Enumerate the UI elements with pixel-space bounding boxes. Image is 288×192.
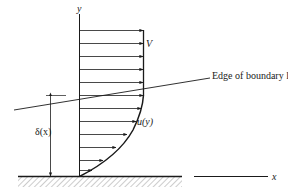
y-axis-label: y: [77, 4, 81, 14]
boundary-layer-edge-label: Edge of boundary layer: [212, 71, 288, 81]
wall-hatching: [18, 177, 182, 187]
thickness-label: δ(x): [35, 127, 51, 137]
freestream-velocity-label: V: [146, 39, 152, 49]
velocity-profile-curve: [80, 95, 144, 177]
profile-arrows: [80, 109, 142, 171]
x-axis-label: x: [272, 172, 276, 182]
freestream-arrows: [80, 31, 144, 96]
velocity-profile-label: u(y): [137, 117, 153, 127]
boundary-layer-diagram: [0, 0, 288, 192]
